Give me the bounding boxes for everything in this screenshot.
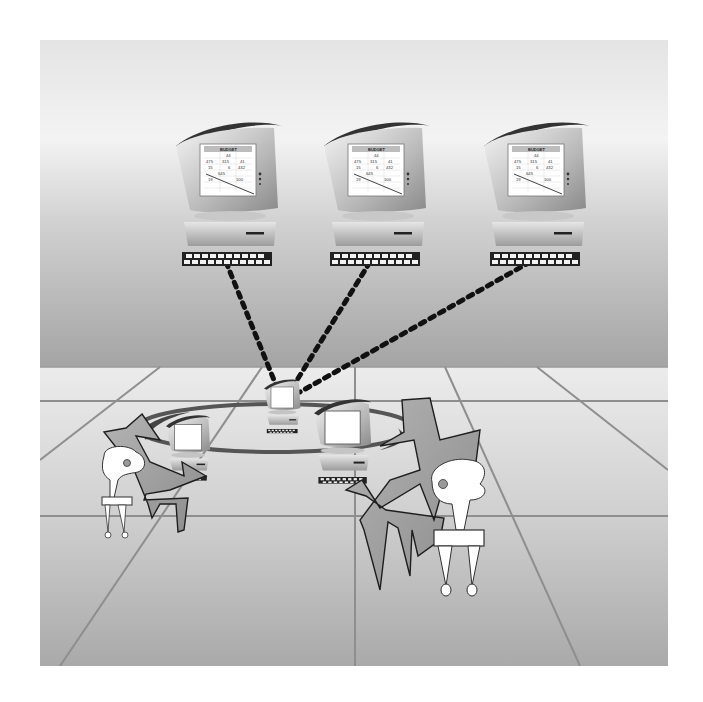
chair-seat	[434, 530, 484, 546]
svg-text:432: 432	[386, 165, 394, 170]
remote-computer-left: BUDGET 44 475 315 41 15 6 432 645 19 100	[176, 123, 282, 266]
svg-text:41: 41	[388, 159, 393, 164]
svg-text:315: 315	[222, 159, 230, 164]
svg-text:44: 44	[226, 153, 231, 158]
svg-text:15: 15	[208, 165, 213, 170]
remote-computer-center: BUDGET 44 475 315 41 15 6 432 645 19 100	[324, 123, 430, 266]
screen-title: BUDGET	[220, 147, 237, 152]
svg-text:645: 645	[526, 171, 534, 176]
svg-text:100: 100	[384, 177, 392, 182]
svg-text:315: 315	[530, 159, 538, 164]
svg-text:15: 15	[356, 165, 361, 170]
network-illustration: BUDGET 44 475 315 41 15 6 432 645 19 100…	[0, 0, 703, 702]
svg-text:100: 100	[236, 177, 244, 182]
svg-text:41: 41	[548, 159, 553, 164]
svg-text:432: 432	[238, 165, 246, 170]
svg-text:475: 475	[354, 159, 362, 164]
svg-text:41: 41	[240, 159, 245, 164]
screen-title: BUDGET	[528, 147, 545, 152]
svg-text:432: 432	[546, 165, 554, 170]
svg-text:19: 19	[208, 177, 213, 182]
remote-computer-right: BUDGET 44 475 315 41 15 6 432 645 19 100	[484, 123, 590, 266]
svg-text:645: 645	[218, 171, 226, 176]
svg-text:645: 645	[366, 171, 374, 176]
svg-text:100: 100	[544, 177, 552, 182]
svg-text:19: 19	[356, 177, 361, 182]
svg-text:44: 44	[374, 153, 379, 158]
svg-text:15: 15	[516, 165, 521, 170]
svg-text:315: 315	[370, 159, 378, 164]
screen-title: BUDGET	[368, 147, 385, 152]
svg-text:19: 19	[516, 177, 521, 182]
chair-seat	[102, 497, 132, 505]
svg-text:475: 475	[206, 159, 214, 164]
svg-text:475: 475	[514, 159, 522, 164]
svg-text:44: 44	[534, 153, 539, 158]
